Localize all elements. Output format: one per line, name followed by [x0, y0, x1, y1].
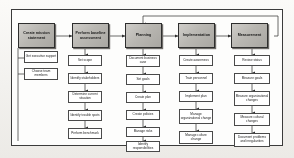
task-label: Set goals	[136, 78, 150, 82]
task-label: Document business case	[127, 57, 159, 64]
task-label: Measure cultural changes	[235, 116, 269, 123]
task-label: Manage organizational change	[180, 113, 212, 120]
phase-label: Perform baseline assessment	[73, 31, 108, 40]
task-box-measure-goals[interactable]: Measure goals	[234, 73, 270, 84]
task-label: Get executive support	[25, 55, 57, 59]
task-box-create-policies[interactable]: Create policies	[126, 110, 160, 120]
phase-label: Measurement	[237, 33, 263, 37]
task-box-measure-organizational-changes[interactable]: Measure organizational changes	[234, 91, 270, 106]
task-label: Identify responsibilities	[127, 143, 159, 150]
phase-box-create-mission-statement[interactable]: Create mission statement	[18, 23, 55, 48]
phase-label: Create mission statement	[19, 31, 54, 40]
task-box-manage-risks[interactable]: Manage risks	[126, 127, 160, 137]
task-box-identify-responsibilities[interactable]: Identify responsibilities	[126, 141, 160, 152]
task-box-get-executive-support[interactable]: Get executive support	[24, 51, 58, 63]
task-box-set-scope[interactable]: Set scope	[68, 55, 102, 66]
phase-box-perform-baseline-assessment[interactable]: Perform baseline assessment	[72, 23, 109, 48]
task-label: Measure organizational changes	[235, 95, 269, 102]
task-box-create-awareness[interactable]: Create awareness	[179, 55, 213, 66]
task-box-train-personnel[interactable]: Train personnel	[179, 73, 213, 84]
task-label: Perform benchmark	[71, 132, 100, 136]
task-label: Measure goals	[241, 77, 263, 81]
task-box-document-problems-and-irregularities[interactable]: Document problems and irregularities	[234, 133, 270, 147]
task-label: Identify trouble spots	[70, 114, 100, 118]
task-label: Create policies	[132, 113, 154, 117]
task-label: Manage culture change	[180, 134, 212, 141]
phase-box-planning[interactable]: Planning	[125, 23, 162, 48]
task-label: Choose team members	[25, 70, 57, 77]
task-box-perform-benchmark[interactable]: Perform benchmark	[68, 128, 102, 139]
task-label: Implement plan	[185, 95, 207, 99]
task-label: Create awareness	[183, 59, 209, 63]
phase-label: Implementation	[182, 33, 211, 37]
task-box-review-status[interactable]: Review status	[234, 55, 270, 66]
task-label: Identify stakeholders	[70, 77, 100, 81]
task-box-create-plan[interactable]: Create plan	[126, 92, 160, 103]
task-box-identify-trouble-spots[interactable]: Identify trouble spots	[68, 110, 102, 121]
task-box-choose-team-members[interactable]: Choose team members	[24, 68, 58, 80]
task-label: Create plan	[134, 96, 151, 100]
task-label: Set scope	[78, 59, 93, 63]
task-box-determine-current-situation[interactable]: Determine current situation	[68, 91, 102, 103]
task-label: Train personnel	[185, 77, 208, 81]
task-box-manage-organizational-change[interactable]: Manage organizational change	[179, 109, 213, 124]
task-box-set-goals[interactable]: Set goals	[126, 74, 160, 85]
phase-box-implementation[interactable]: Implementation	[178, 23, 215, 48]
process-flowchart-diagram: Create mission statement Get executive s…	[0, 0, 294, 158]
task-label: Document problems and irregularities	[235, 136, 269, 143]
task-label: Review status	[242, 59, 263, 63]
phase-label: Planning	[135, 33, 153, 37]
task-label: Manage risks	[133, 130, 153, 134]
task-box-measure-cultural-changes[interactable]: Measure cultural changes	[234, 113, 270, 126]
task-box-document-business-case[interactable]: Document business case	[126, 55, 160, 67]
task-box-implement-plan[interactable]: Implement plan	[179, 91, 213, 102]
phase-box-measurement[interactable]: Measurement	[231, 23, 268, 48]
task-box-identify-stakeholders[interactable]: Identify stakeholders	[68, 73, 102, 84]
task-label: Determine current situation	[69, 93, 101, 100]
task-box-manage-culture-change[interactable]: Manage culture change	[179, 131, 213, 144]
